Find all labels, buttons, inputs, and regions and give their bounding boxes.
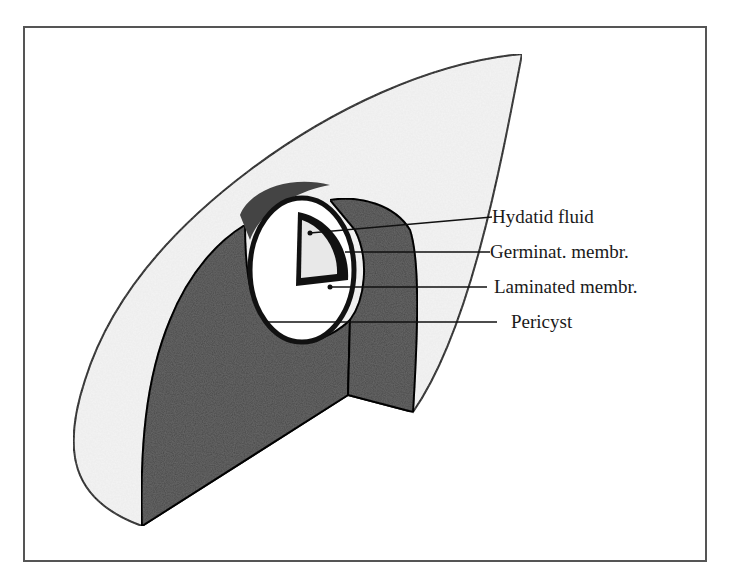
label-laminated-membrane: Laminated membr.	[494, 277, 638, 296]
label-pericyst: Pericyst	[511, 312, 572, 331]
label-hydatid-fluid: Hydatid fluid	[492, 207, 594, 226]
label-germinal-membrane: Germinat. membr.	[490, 242, 629, 261]
